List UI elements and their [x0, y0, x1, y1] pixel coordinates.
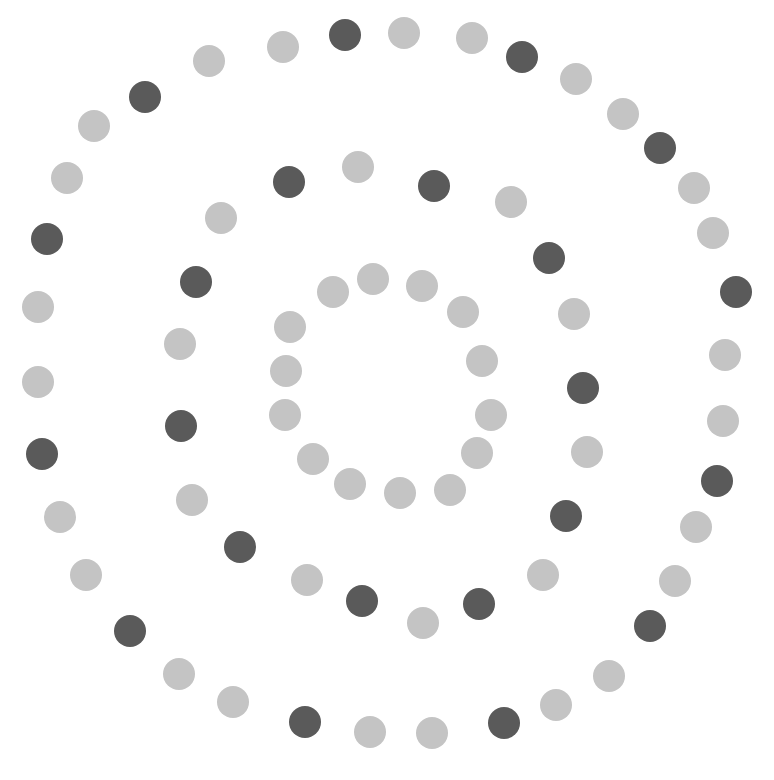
inner-ring-dot-light — [447, 296, 479, 328]
inner-ring — [0, 0, 774, 780]
inner-ring-dot-light — [274, 311, 306, 343]
inner-ring-dot-light — [317, 276, 349, 308]
inner-ring-dot-light — [475, 399, 507, 431]
inner-ring-dot-light — [269, 399, 301, 431]
inner-ring-dot-light — [297, 443, 329, 475]
inner-ring-dot-light — [334, 468, 366, 500]
inner-ring-dot-light — [461, 437, 493, 469]
inner-ring-dot-light — [270, 355, 302, 387]
inner-ring-dot-light — [384, 477, 416, 509]
inner-ring-dot-light — [406, 270, 438, 302]
inner-ring-dot-light — [466, 345, 498, 377]
inner-ring-dot-light — [434, 474, 466, 506]
inner-ring-dot-light — [357, 263, 389, 295]
dot-stimulus-canvas — [0, 0, 774, 780]
